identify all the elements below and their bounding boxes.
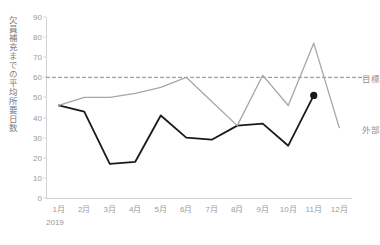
y-tick-label: 10: [33, 173, 42, 182]
x-tick-label: 11月: [306, 203, 322, 214]
series-line-内部: [59, 95, 314, 163]
plot-area: 0102030405060708090: [46, 17, 352, 198]
y-axis-title: 欠員補充までの平均所要日数: [2, 16, 16, 186]
x-tick-label: 6月: [180, 203, 192, 214]
y-tick-label: 0: [38, 194, 42, 203]
x-tick-label: 9月: [257, 203, 269, 214]
y-tick-label: 30: [33, 133, 42, 142]
x-tick-label: 3月: [104, 203, 116, 214]
y-tick-label: 80: [33, 33, 42, 42]
y-tick-label: 50: [33, 93, 42, 102]
series-layer: [46, 17, 352, 198]
x-tick-label: 8月: [231, 203, 243, 214]
y-tick-label: 60: [33, 73, 42, 82]
series-label-target: 目標: [362, 72, 380, 84]
x-tick-label: 4月: [129, 203, 141, 214]
x-tick-label: 2月: [78, 203, 90, 214]
y-tick-label: 20: [33, 153, 42, 162]
x-tick-label: 12月: [331, 203, 348, 214]
series-line-外部: [59, 43, 340, 127]
series-end-marker-内部: [310, 92, 317, 99]
x-axis-group-label: 2019: [46, 218, 64, 227]
x-tick-label: 7月: [206, 203, 218, 214]
x-tick-label: 5月: [155, 203, 167, 214]
series-label-外部: 外部: [362, 123, 380, 135]
y-tick-label: 70: [33, 53, 42, 62]
x-axis-line: [46, 198, 352, 199]
y-tick-label: 40: [33, 113, 42, 122]
chart-title-strip: [0, 0, 367, 6]
y-tick-label: 90: [33, 13, 42, 22]
x-tick-label: 10月: [280, 203, 297, 214]
x-tick-label: 1月: [53, 203, 65, 214]
